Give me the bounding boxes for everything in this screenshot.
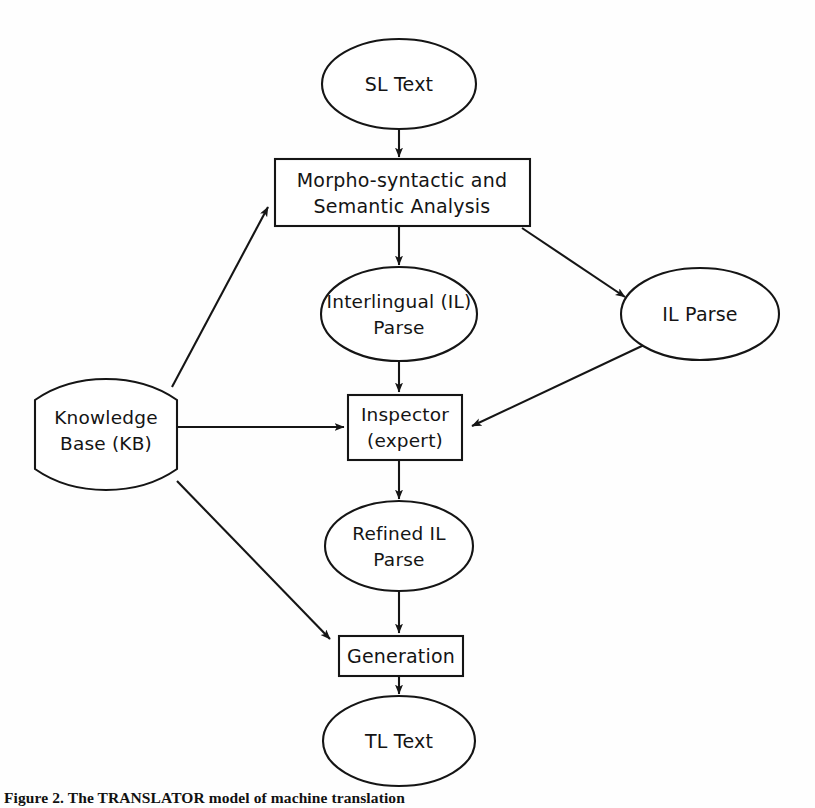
sl-text-label: SL Text [365, 73, 434, 95]
knowledge-base-label-line1: Knowledge [54, 407, 158, 428]
figure-container: SL Text Morpho-syntactic and Semantic An… [0, 0, 815, 808]
edge-kb-to-morpho [172, 207, 268, 387]
generation-label: Generation [347, 645, 455, 667]
interlingual-parse-label-line1: Interlingual (IL) [327, 291, 472, 312]
node-sl-text[interactable]: SL Text [322, 39, 476, 129]
node-morpho-syntactic-analysis[interactable]: Morpho-syntactic and Semantic Analysis [275, 159, 530, 226]
node-tl-text[interactable]: TL Text [323, 696, 475, 786]
figure-caption: Figure 2. The TRANSLATOR model of machin… [4, 789, 811, 807]
morpho-label-line2: Semantic Analysis [314, 195, 491, 217]
refined-il-parse-ellipse [325, 501, 473, 591]
tl-text-label: TL Text [364, 730, 433, 752]
knowledge-base-label-line2: Base (KB) [60, 433, 152, 454]
node-interlingual-parse[interactable]: Interlingual (IL) Parse [321, 267, 477, 361]
node-knowledge-base[interactable]: Knowledge Base (KB) [35, 379, 177, 490]
node-generation[interactable]: Generation [339, 636, 463, 676]
il-parse-label: IL Parse [662, 303, 737, 325]
edge-kb-to-generation [177, 481, 330, 639]
interlingual-parse-ellipse [321, 267, 477, 361]
flowchart-diagram: SL Text Morpho-syntactic and Semantic An… [0, 0, 815, 808]
node-inspector[interactable]: Inspector (expert) [348, 395, 462, 460]
node-refined-il-parse[interactable]: Refined IL Parse [325, 501, 473, 591]
morpho-label-line1: Morpho-syntactic and [297, 169, 507, 191]
refined-il-parse-label-line2: Parse [373, 549, 424, 570]
edge-il-parse-to-inspector [472, 345, 644, 426]
edge-morpho-to-il-parse [522, 228, 625, 297]
inspector-label-line1: Inspector [361, 404, 449, 425]
node-il-parse[interactable]: IL Parse [621, 268, 779, 360]
refined-il-parse-label-line1: Refined IL [352, 523, 446, 544]
inspector-label-line2: (expert) [367, 430, 443, 451]
interlingual-parse-label-line2: Parse [373, 317, 424, 338]
